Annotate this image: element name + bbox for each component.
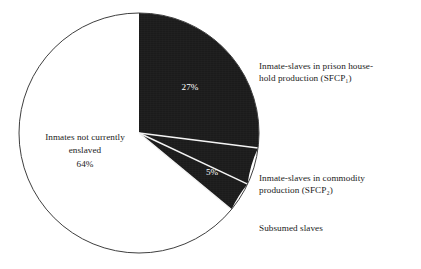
pie-slice-sfcp1[interactable] — [139, 13, 259, 148]
pie-label-not-enslaved-value: 64% — [24, 158, 146, 170]
slice-value-sfcp2: 5% — [206, 167, 219, 177]
pie-label-subsumed: Subsumed slaves — [259, 222, 417, 234]
pie-label-not-enslaved-text: Inmates not currently enslaved — [45, 132, 125, 154]
pie-label-not-enslaved: Inmates not currently enslaved 64% — [24, 119, 146, 183]
slice-value-subsumed: 4% — [189, 188, 202, 198]
pie-label-sfcp1: Inmate-slaves in prison house- hold prod… — [259, 60, 417, 85]
pie-chart-figure: 27% 5% 4% Inmate-slaves in prison house-… — [0, 0, 421, 269]
slice-value-sfcp1: 27% — [182, 82, 199, 92]
pie-label-sfcp2: Inmate-slaves in commodity production (S… — [259, 172, 417, 197]
